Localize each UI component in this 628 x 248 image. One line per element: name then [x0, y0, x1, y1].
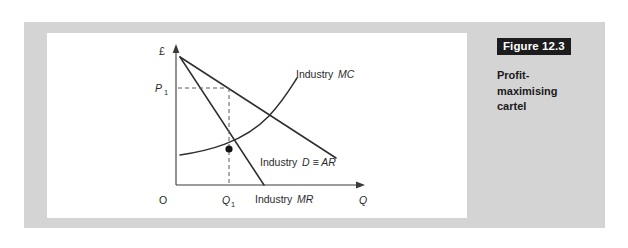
figure-container: £ Q O P 1 Q 1 Industry MC Industry D ≡ A… [0, 0, 628, 248]
svg-text:P: P [155, 82, 162, 94]
figure-caption-text: Profit- maximising cartel [497, 68, 597, 115]
annotation-industry-ar: Industry D ≡ AR [260, 156, 336, 168]
svg-text:Industry: Industry [296, 68, 334, 80]
x-axis-label: Q [359, 194, 367, 206]
y-axis-label: £ [159, 45, 165, 57]
caption-line-1: Profit- [497, 68, 597, 84]
curve-industry-mc [180, 78, 297, 155]
figure-number-badge: Figure 12.3 [497, 38, 571, 55]
curve-industry-mr [180, 57, 264, 185]
svg-text:1: 1 [231, 200, 235, 209]
svg-text:Q: Q [222, 194, 230, 206]
price-tick-label: P 1 [155, 82, 168, 97]
svg-text:MC: MC [338, 68, 355, 80]
y-axis-arrow-icon [173, 44, 180, 53]
caption-line-3: cartel [497, 99, 597, 115]
caption-line-2: maximising [497, 84, 597, 100]
origin-label: O [159, 194, 167, 206]
svg-text:1: 1 [164, 88, 168, 97]
y-axis [173, 44, 180, 185]
svg-text:Industry: Industry [255, 193, 293, 205]
quantity-tick-label: Q 1 [222, 194, 235, 209]
svg-text:MR: MR [297, 193, 314, 205]
annotation-industry-mc: Industry MC [296, 68, 355, 80]
svg-text:Industry: Industry [260, 156, 298, 168]
equilibrium-point [225, 145, 232, 152]
figure-caption-block: Figure 12.3 Profit- maximising cartel [497, 36, 597, 115]
x-axis [176, 182, 365, 189]
economics-chart: £ Q O P 1 Q 1 Industry MC Industry D ≡ A… [47, 33, 467, 218]
svg-text:D ≡ AR: D ≡ AR [302, 156, 336, 168]
annotation-industry-mr: Industry MR [255, 193, 314, 205]
x-axis-arrow-icon [356, 182, 365, 189]
